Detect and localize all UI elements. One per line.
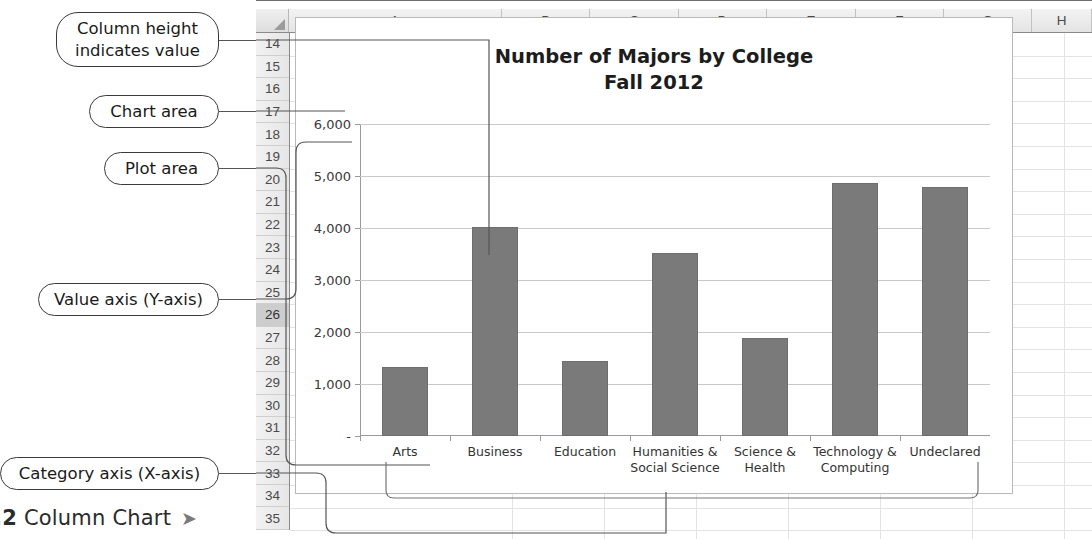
bar-technology-[interactable] (832, 183, 878, 436)
row-header-34[interactable]: 34 (256, 485, 289, 508)
x-tick (630, 436, 631, 441)
leader-line-category-axis (219, 473, 256, 474)
leader-line-value-axis (219, 299, 256, 300)
bar-series (360, 124, 990, 436)
category-label-technology-: Technology & Computing (810, 444, 900, 477)
chart-title: Number of Majors by College Fall 2012 (296, 44, 1012, 97)
row-header-23[interactable]: 23 (256, 236, 289, 259)
leader-line-plot-area (219, 168, 256, 169)
callout-value-axis: Value axis (Y-axis) (38, 283, 219, 316)
grid-col-line (1064, 33, 1065, 539)
x-tick (720, 436, 721, 441)
row-header-26[interactable]: 26 (256, 304, 289, 327)
row-header-28[interactable]: 28 (256, 349, 289, 372)
bar-slot (540, 124, 630, 436)
category-label-business: Business (450, 444, 540, 477)
x-tick (540, 436, 541, 441)
row-header-27[interactable]: 27 (256, 327, 289, 350)
category-axis-labels: ArtsBusinessEducationHumanities & Social… (360, 444, 990, 477)
row-header-35[interactable]: 35 (256, 507, 289, 530)
row-header-29[interactable]: 29 (256, 372, 289, 395)
row-header-14[interactable]: 14 (256, 33, 289, 56)
row-header-18[interactable]: 18 (256, 123, 289, 146)
column-header-h[interactable]: H (1032, 9, 1092, 32)
x-tick (450, 436, 451, 441)
row-header-20[interactable]: 20 (256, 169, 289, 192)
callout-column-height: Column height indicates value (56, 12, 219, 67)
x-tick (810, 436, 811, 441)
chart-title-line-2: Fall 2012 (296, 70, 1012, 96)
row-header-15[interactable]: 15 (256, 56, 289, 79)
y-tick-label-4000: 4,000 (314, 221, 351, 236)
row-header-22[interactable]: 22 (256, 214, 289, 237)
y-tick-label-5000: 5,000 (314, 169, 351, 184)
category-label-education: Education (540, 444, 630, 477)
callout-chart-area: Chart area (89, 95, 219, 128)
figure-arrow-icon: ➤ (178, 507, 197, 529)
leader-line-column-height (219, 40, 256, 41)
row-header-33[interactable]: 33 (256, 462, 289, 485)
figure-caption-text: Column Chart (24, 506, 171, 530)
chart-object[interactable]: Number of Majors by College Fall 2012 -1… (295, 17, 1013, 494)
bar-slot (360, 124, 450, 436)
bar-slot (720, 124, 810, 436)
callout-category-axis: Category axis (X-axis) (0, 457, 219, 490)
plot-area[interactable]: -1,0002,0003,0004,0005,0006,000 (360, 124, 990, 436)
row-header-16[interactable]: 16 (256, 78, 289, 101)
spreadsheet-worksheet: ABCDEFGH 1415161718192021222324252627282… (256, 0, 1092, 539)
bar-slot (630, 124, 720, 436)
x-tick (360, 436, 361, 441)
category-label-undeclared: Undeclared (900, 444, 990, 477)
annotation-panel: Column height indicates value Chart area… (0, 0, 256, 539)
row-header-31[interactable]: 31 (256, 417, 289, 440)
leader-line-chart-area (219, 111, 256, 112)
row-header-24[interactable]: 24 (256, 259, 289, 282)
bar-education[interactable] (562, 361, 608, 436)
y-tick-label-3000: 3,000 (314, 273, 351, 288)
bar-arts[interactable] (382, 367, 428, 436)
row-header-32[interactable]: 32 (256, 440, 289, 463)
row-header-column: 1415161718192021222324252627282930313233… (256, 33, 290, 530)
y-tick-label-0: - (346, 429, 351, 444)
chart-title-line-1: Number of Majors by College (495, 45, 813, 68)
row-header-21[interactable]: 21 (256, 191, 289, 214)
category-label-science-: Science & Health (720, 444, 810, 477)
bar-science-[interactable] (742, 338, 788, 436)
bar-undeclared[interactable] (922, 187, 968, 436)
callout-plot-area: Plot area (104, 152, 219, 185)
figure-number: .2 (0, 506, 17, 530)
x-tick (900, 436, 901, 441)
y-tick-label-2000: 2,000 (314, 325, 351, 340)
row-header-19[interactable]: 19 (256, 146, 289, 169)
figure-caption: .2 Column Chart ➤ (0, 506, 197, 530)
bar-humanities-[interactable] (652, 253, 698, 436)
bar-slot (900, 124, 990, 436)
category-label-humanities-: Humanities & Social Science (630, 444, 720, 477)
row-header-25[interactable]: 25 (256, 282, 289, 305)
bar-slot (810, 124, 900, 436)
y-tick-label-6000: 6,000 (314, 117, 351, 132)
select-all-corner[interactable] (256, 9, 289, 32)
y-tick-label-1000: 1,000 (314, 377, 351, 392)
category-label-arts: Arts (360, 444, 450, 477)
row-header-17[interactable]: 17 (256, 101, 289, 124)
row-header-30[interactable]: 30 (256, 395, 289, 418)
bar-business[interactable] (472, 227, 518, 436)
bar-slot (450, 124, 540, 436)
select-all-triangle-icon (274, 19, 285, 30)
